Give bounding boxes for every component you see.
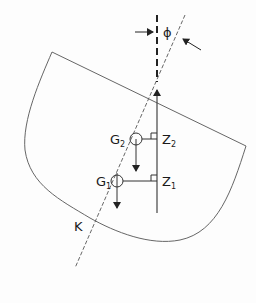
z2-label: Z2 [162,132,176,149]
right-angle-mark-z2 [151,133,157,139]
angle-arrow-right [183,39,201,50]
diagram-canvas: ϕ G2 Z2 G1 Z1 K [0,0,256,303]
stability-diagram: ϕ G2 Z2 G1 Z1 K [0,0,256,303]
g1-label: G1 [96,174,111,191]
right-angle-mark-z1 [151,175,157,181]
g2-label: G2 [110,132,125,149]
z1-label: Z1 [162,174,176,191]
angle-label: ϕ [163,25,172,40]
hull-outline [25,52,246,241]
keel-label: K [74,219,83,234]
